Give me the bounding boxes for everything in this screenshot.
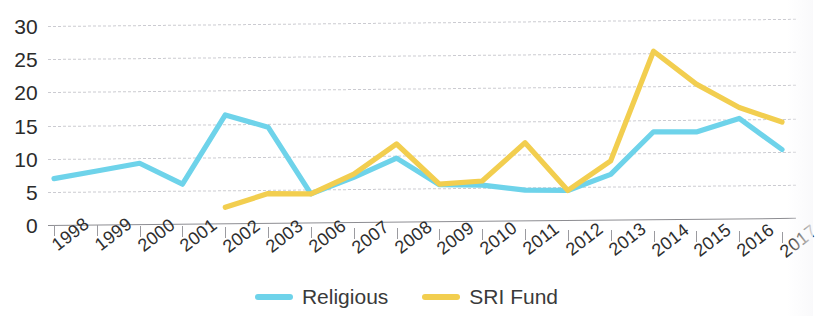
y-axis-tick-label: 30 (14, 16, 38, 37)
chart-legend: ReligiousSRI Fund (0, 286, 813, 307)
plot-area: 1998199920002001200220032006200720082009… (48, 20, 796, 232)
legend-swatch-icon (255, 294, 293, 300)
y-axis-tick-label: 25 (14, 49, 38, 70)
y-axis-tick-label: 20 (14, 82, 38, 103)
y-axis-tick-label: 0 (26, 215, 38, 236)
y-axis-tick-label: 5 (26, 181, 38, 202)
y-axis-tick-label: 15 (14, 115, 38, 136)
y-axis-tick-label: 10 (14, 148, 38, 169)
series-line-religious (54, 115, 782, 194)
series-lines (48, 20, 796, 232)
legend-item-religious[interactable]: Religious (255, 286, 388, 307)
legend-label: Religious (302, 286, 388, 307)
legend-label: SRI Fund (469, 286, 558, 307)
legend-swatch-icon (422, 294, 460, 300)
y-axis: 051015202530 (0, 0, 44, 240)
legend-item-sri-fund[interactable]: SRI Fund (422, 286, 558, 307)
